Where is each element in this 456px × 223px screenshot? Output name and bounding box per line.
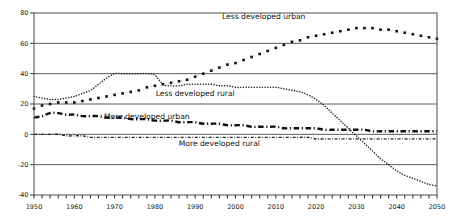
series-marker (371, 27, 374, 30)
chart-container: 806040200-20-40 195019601970198019902000… (0, 0, 456, 223)
series-marker (299, 39, 302, 42)
x-tick-label: 2030 (348, 203, 365, 211)
series-marker (202, 72, 205, 75)
series-marker (81, 100, 84, 103)
series-marker (146, 86, 149, 89)
series-marker (226, 63, 229, 66)
series-marker (105, 95, 108, 98)
series-marker (97, 97, 100, 100)
series-marker (283, 44, 286, 47)
series-marker (218, 66, 221, 69)
y-tick-label: 80 (20, 9, 28, 17)
series-marker (178, 80, 181, 83)
series-marker (420, 34, 423, 37)
series-marker (291, 41, 294, 44)
x-tick-label: 2050 (429, 203, 446, 211)
series-marker (186, 78, 189, 81)
x-tick-label: 1970 (106, 203, 123, 211)
series-label-1: Less developed rural (156, 89, 235, 98)
series-marker (315, 34, 318, 37)
series-marker (339, 30, 342, 33)
series-marker (363, 27, 366, 30)
x-tick-label: 1950 (26, 203, 43, 211)
series-marker (323, 33, 326, 36)
series-label-2: More developed urban (104, 112, 190, 121)
series-marker (395, 30, 398, 33)
y-axis-tick-labels: 806040200-20-40 (18, 9, 29, 199)
x-tick-label: 1980 (147, 203, 164, 211)
series-label-0: Less developed urban (222, 12, 306, 21)
series-marker (154, 85, 157, 88)
x-tick-label: 2000 (227, 203, 244, 211)
series-marker (307, 36, 310, 39)
series-marker (121, 92, 124, 95)
y-tick-label: -20 (18, 161, 29, 169)
x-tick-label: 2020 (308, 203, 325, 211)
series-marker (234, 62, 237, 65)
x-axis-minor-ticks (34, 195, 437, 199)
series-marker (275, 47, 278, 50)
x-tick-label: 1960 (66, 203, 83, 211)
x-axis-tick-labels: 1950196019701980199020002010202020302040… (26, 203, 446, 211)
series-marker (65, 101, 68, 104)
x-tick-label: 1990 (187, 203, 204, 211)
y-tick-label: 20 (20, 100, 28, 108)
series-marker (210, 69, 213, 72)
x-tick-label: 2010 (268, 203, 285, 211)
series-marker (250, 56, 253, 59)
series-marker (355, 27, 358, 30)
x-tick-label: 2040 (388, 203, 405, 211)
series-marker (428, 36, 431, 39)
y-tick-label: -40 (18, 191, 29, 199)
series-marker (73, 101, 76, 104)
series-marker (113, 94, 116, 97)
y-tick-label: 0 (24, 131, 28, 139)
series-label-3: More developed rural (179, 139, 260, 148)
series-marker (49, 103, 52, 106)
series-marker (387, 28, 390, 31)
series-marker (266, 50, 269, 53)
series-marker (258, 53, 261, 56)
axis-major-ticks (30, 13, 34, 195)
y-tick-label: 40 (20, 70, 28, 78)
series-marker (89, 98, 92, 101)
series-marker (57, 101, 60, 104)
series-marker (347, 28, 350, 31)
series-marker (331, 31, 334, 34)
series-marker (129, 91, 132, 94)
y-tick-label: 60 (20, 40, 28, 48)
population-growth-line-chart: 806040200-20-40 195019601970198019902000… (0, 0, 456, 223)
series-marker (379, 28, 382, 31)
series-marker (403, 31, 406, 34)
series-marker (412, 33, 415, 36)
series-marker (170, 81, 173, 84)
series-marker (137, 89, 140, 92)
series-marker (41, 104, 44, 107)
series-marker (242, 59, 245, 62)
series-marker (194, 75, 197, 78)
